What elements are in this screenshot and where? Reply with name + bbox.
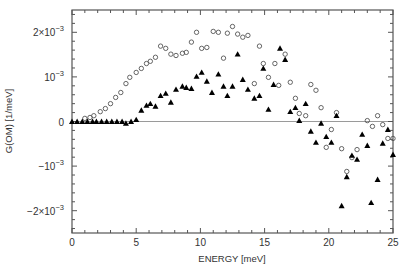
circle-marker	[189, 40, 193, 44]
triangle-marker	[364, 143, 370, 148]
circle-marker	[314, 88, 318, 92]
circle-marker	[134, 70, 138, 74]
x-axis-label: ENERGY [meV]	[198, 253, 265, 264]
circle-marker	[345, 169, 349, 173]
scatter-chart: 0510152025 2×10−310−30−10−3−2×10−3 ENERG…	[0, 0, 405, 273]
triangle-marker	[138, 107, 144, 112]
circle-marker	[329, 127, 333, 131]
y-tick-label: −2×10−3	[27, 203, 64, 217]
triangle-marker	[221, 83, 227, 88]
circle-marker	[381, 122, 385, 126]
circle-marker	[283, 52, 287, 56]
circle-marker	[113, 95, 117, 99]
circle-marker	[124, 81, 128, 85]
circle-marker	[92, 114, 96, 118]
circle-marker	[266, 75, 270, 79]
circle-marker	[339, 147, 343, 151]
circle-marker	[277, 83, 281, 87]
triangle-marker	[163, 90, 169, 95]
circle-marker	[375, 114, 379, 118]
triangle-marker	[235, 51, 241, 56]
circle-marker	[355, 147, 359, 151]
triangle-marker	[194, 73, 200, 78]
circle-marker	[83, 116, 87, 120]
y-tick-label: 0	[58, 117, 64, 128]
triangle-marker	[245, 86, 251, 91]
triangle-marker	[296, 118, 302, 123]
triangle-marker	[230, 83, 236, 88]
triangle-series	[69, 45, 396, 208]
y-tick-label: −10−3	[38, 158, 64, 172]
circle-marker	[128, 75, 132, 79]
triangle-marker	[199, 69, 205, 74]
x-tick-label: 15	[259, 237, 271, 248]
triangle-marker	[380, 140, 386, 145]
circle-marker	[169, 52, 173, 56]
circle-marker	[225, 31, 229, 35]
circle-marker	[386, 136, 390, 140]
circle-marker	[194, 30, 198, 34]
triangle-marker	[375, 176, 381, 181]
triangle-marker	[344, 174, 350, 179]
triangle-marker	[328, 139, 334, 144]
triangle-marker	[265, 106, 271, 111]
circle-marker	[288, 80, 292, 84]
triangle-marker	[282, 57, 288, 62]
circle-marker	[205, 45, 209, 49]
circle-marker	[297, 111, 301, 115]
triangle-marker	[287, 109, 293, 114]
triangle-marker	[158, 93, 164, 98]
circle-marker	[261, 61, 265, 65]
circle-marker	[257, 44, 261, 48]
triangle-marker	[308, 128, 314, 133]
circle-marker	[370, 124, 374, 128]
triangle-marker	[339, 203, 345, 208]
triangle-marker	[188, 85, 194, 90]
triangle-marker	[359, 131, 365, 136]
circle-marker	[293, 96, 297, 100]
triangle-marker	[168, 99, 174, 104]
triangle-marker	[390, 152, 396, 157]
y-axis-label: G(OM) [1/meV]	[3, 89, 14, 153]
circle-marker	[230, 24, 234, 28]
circle-marker	[199, 46, 203, 50]
circle-marker	[319, 105, 323, 109]
circle-marker	[252, 81, 256, 85]
data-series	[69, 24, 396, 208]
x-tick-label: 5	[133, 237, 139, 248]
y-tick-label: 2×10−3	[33, 24, 64, 38]
triangle-marker	[349, 152, 355, 157]
triangle-marker	[323, 134, 329, 139]
circle-series	[83, 24, 396, 173]
circle-marker	[365, 118, 369, 122]
triangle-marker	[277, 45, 283, 50]
triangle-marker	[215, 71, 221, 76]
triangle-marker	[152, 103, 158, 108]
circle-marker	[211, 29, 215, 33]
triangle-marker	[271, 81, 277, 86]
triangle-marker	[204, 78, 210, 83]
circle-marker	[119, 90, 123, 94]
circle-marker	[98, 109, 102, 113]
circle-marker	[241, 35, 245, 39]
triangle-marker	[354, 156, 360, 161]
triangle-marker	[173, 86, 179, 91]
circle-marker	[153, 55, 157, 59]
circle-marker	[103, 106, 107, 110]
triangle-marker	[133, 117, 139, 122]
circle-marker	[324, 145, 328, 149]
triangle-marker	[256, 93, 262, 98]
y-tick-label: 10−3	[44, 69, 64, 83]
triangle-marker	[147, 101, 153, 106]
triangle-marker	[303, 101, 309, 106]
triangle-marker	[260, 65, 266, 70]
circle-marker	[235, 32, 239, 36]
circle-marker	[273, 61, 277, 65]
circle-marker	[139, 66, 143, 70]
circle-marker	[216, 30, 220, 34]
triangle-marker	[292, 105, 298, 110]
triangle-marker	[240, 77, 246, 82]
triangle-marker	[209, 90, 215, 95]
circle-marker	[164, 46, 168, 50]
circle-marker	[108, 101, 112, 105]
